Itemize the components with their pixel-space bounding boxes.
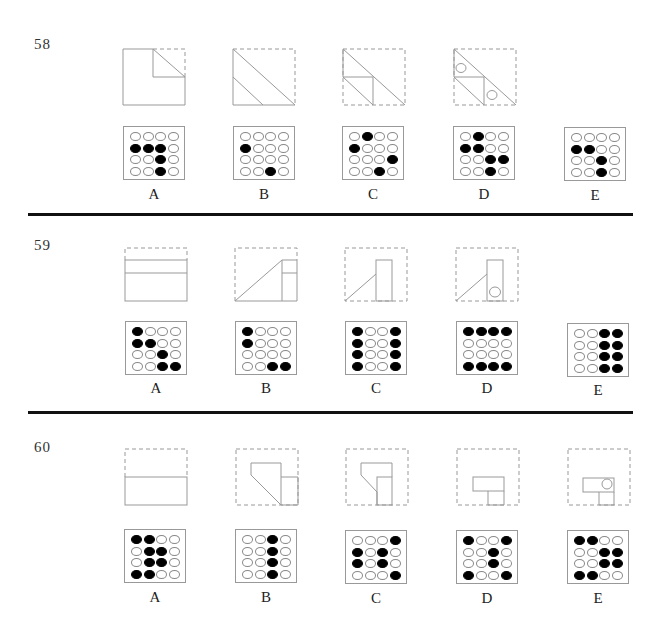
- empty-dot-icon: [267, 327, 278, 336]
- punched-hole-icon: [602, 479, 612, 489]
- punched-hole-icon: [487, 91, 497, 100]
- empty-dot-icon: [143, 155, 154, 164]
- empty-dot-icon: [476, 350, 487, 359]
- answer-grid-58-C[interactable]: [342, 126, 404, 180]
- empty-dot-icon: [365, 571, 376, 580]
- filled-dot-icon: [463, 536, 474, 545]
- fold-step-60-1: [124, 448, 188, 506]
- filled-dot-icon: [612, 341, 623, 350]
- filled-dot-icon: [599, 329, 610, 338]
- empty-dot-icon: [278, 132, 289, 141]
- filled-dot-icon: [131, 535, 142, 544]
- empty-dot-icon: [596, 133, 607, 142]
- empty-dot-icon: [143, 132, 154, 141]
- question-number-59: 59: [34, 237, 51, 254]
- answer-grid-59-B[interactable]: [235, 321, 297, 375]
- empty-dot-icon: [169, 547, 180, 556]
- answer-grid-59-C[interactable]: [345, 321, 407, 375]
- empty-dot-icon: [365, 362, 376, 371]
- empty-dot-icon: [130, 155, 141, 164]
- filled-dot-icon: [242, 339, 253, 348]
- answer-grid-58-D[interactable]: [453, 126, 515, 180]
- empty-dot-icon: [498, 167, 509, 176]
- filled-dot-icon: [473, 144, 484, 153]
- filled-dot-icon: [473, 132, 484, 141]
- answer-grid-58-E[interactable]: [564, 127, 626, 181]
- empty-dot-icon: [157, 339, 168, 348]
- answer-grid-60-E[interactable]: [567, 530, 629, 584]
- empty-dot-icon: [587, 548, 598, 557]
- empty-dot-icon: [280, 339, 291, 348]
- empty-dot-icon: [365, 339, 376, 348]
- answer-grid-60-D[interactable]: [456, 530, 518, 584]
- option-label-59-E: E: [567, 382, 629, 399]
- fold-step-59-4: [455, 247, 519, 302]
- empty-dot-icon: [145, 350, 156, 359]
- empty-dot-icon: [240, 167, 251, 176]
- empty-dot-icon: [501, 559, 512, 568]
- filled-dot-icon: [390, 327, 401, 336]
- empty-dot-icon: [132, 350, 143, 359]
- empty-dot-icon: [463, 339, 474, 348]
- option-label-60-A: A: [124, 589, 186, 606]
- filled-dot-icon: [587, 571, 598, 580]
- answer-grid-59-D[interactable]: [456, 321, 518, 375]
- empty-dot-icon: [255, 547, 266, 556]
- filled-dot-icon: [599, 559, 610, 568]
- filled-dot-icon: [460, 144, 471, 153]
- empty-dot-icon: [168, 144, 179, 153]
- empty-dot-icon: [280, 350, 291, 359]
- filled-dot-icon: [267, 547, 278, 556]
- empty-dot-icon: [584, 133, 595, 142]
- fold-step-60-2: [235, 448, 299, 506]
- answer-grid-59-A[interactable]: [125, 321, 187, 375]
- filled-dot-icon: [599, 341, 610, 350]
- answer-grid-60-B[interactable]: [235, 529, 297, 583]
- empty-dot-icon: [460, 155, 471, 164]
- section-divider: [28, 213, 633, 216]
- empty-dot-icon: [280, 535, 291, 544]
- empty-dot-icon: [574, 364, 585, 373]
- empty-dot-icon: [501, 548, 512, 557]
- empty-dot-icon: [463, 548, 474, 557]
- answer-grid-58-A[interactable]: [123, 126, 185, 180]
- answer-grid-58-B[interactable]: [233, 126, 295, 180]
- punched-hole-icon: [490, 287, 501, 297]
- empty-dot-icon: [488, 339, 499, 348]
- filled-dot-icon: [156, 558, 167, 567]
- empty-dot-icon: [390, 559, 401, 568]
- empty-dot-icon: [571, 168, 582, 177]
- filled-dot-icon: [352, 350, 363, 359]
- empty-dot-icon: [145, 362, 156, 371]
- option-label-58-B: B: [233, 186, 295, 203]
- filled-dot-icon: [488, 327, 499, 336]
- filled-dot-icon: [390, 339, 401, 348]
- empty-dot-icon: [242, 558, 253, 567]
- empty-dot-icon: [387, 132, 398, 141]
- answer-grid-60-C[interactable]: [345, 530, 407, 584]
- empty-dot-icon: [362, 155, 373, 164]
- fold-step-58-3: [342, 48, 406, 106]
- empty-dot-icon: [574, 341, 585, 350]
- empty-dot-icon: [255, 350, 266, 359]
- filled-dot-icon: [501, 327, 512, 336]
- empty-dot-icon: [170, 327, 181, 336]
- empty-dot-icon: [242, 535, 253, 544]
- empty-dot-icon: [155, 132, 166, 141]
- filled-dot-icon: [463, 571, 474, 580]
- fold-step-59-2: [234, 247, 298, 302]
- empty-dot-icon: [587, 352, 598, 361]
- answer-grid-59-E[interactable]: [567, 323, 629, 377]
- empty-dot-icon: [242, 362, 253, 371]
- filled-dot-icon: [362, 132, 373, 141]
- empty-dot-icon: [485, 144, 496, 153]
- empty-dot-icon: [168, 155, 179, 164]
- empty-dot-icon: [242, 570, 253, 579]
- empty-dot-icon: [365, 548, 376, 557]
- answer-grid-60-A[interactable]: [124, 529, 186, 583]
- empty-dot-icon: [352, 571, 363, 580]
- option-label-60-D: D: [456, 590, 518, 607]
- section-divider: [28, 411, 633, 414]
- filled-dot-icon: [488, 362, 499, 371]
- empty-dot-icon: [612, 571, 623, 580]
